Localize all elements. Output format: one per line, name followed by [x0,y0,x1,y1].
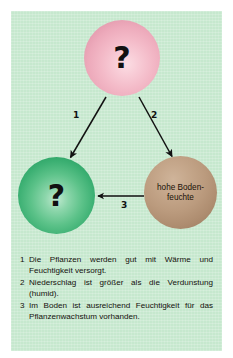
node-left-sphere: ? [18,157,95,234]
node-right-label-line2: feuchte [167,193,194,202]
node-right-sphere: hohe Boden- feuchte [144,156,217,229]
caption-item: 3 Im Boden ist ausreichend Feuchtigkeit … [20,300,213,323]
caption-list: 1 Die Pflanzen werden gut mit Wärme und … [11,254,222,323]
node-right-label-line1: hohe Boden- [157,183,204,192]
caption-item-number: 1 [20,254,29,265]
caption-item: 1 Die Pflanzen werden gut mit Wärme und … [20,254,213,277]
node-top-label: ? [113,40,130,75]
arrow-1-line [71,97,107,158]
arrow-1-number: 1 [73,110,79,120]
concept-diagram: ? ? hohe Boden- feuchte 1 2 3 [11,11,222,251]
caption-item-text: Die Pflanzen werden gut mit Wärme und Fe… [29,254,213,277]
caption-item-number: 3 [20,300,29,311]
arrow-2-line [139,97,172,157]
caption-item: 2 Niederschlag ist größer als die Verdun… [20,277,213,300]
node-left-label: ? [48,178,65,213]
caption-item-number: 2 [20,277,29,288]
node-top-sphere: ? [84,20,160,96]
caption-item-text: Niederschlag ist größer als die Verdunst… [29,277,213,300]
figure-panel: ? ? hohe Boden- feuchte 1 2 3 1 Die Pfla… [11,11,222,351]
arrow-3-number: 3 [121,200,127,210]
caption-item-text: Im Boden ist ausreichend Feuchtigkeit fü… [29,300,213,323]
node-right-label: hohe Boden- feuchte [153,183,208,202]
arrow-2-number: 2 [151,110,157,120]
